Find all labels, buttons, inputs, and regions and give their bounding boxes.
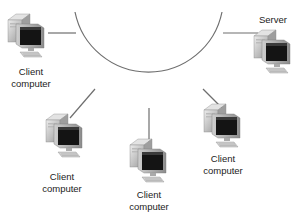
client-top-left-computer-icon[interactable] — [8, 14, 44, 57]
link-client-lower-left — [70, 89, 95, 118]
label-line2: computer — [8, 78, 54, 90]
client-lower-right-label: Client computer — [197, 153, 249, 177]
label-line1: Server — [256, 14, 290, 26]
label-line1: Client — [197, 153, 249, 165]
label-line1: Client — [123, 189, 175, 201]
label-line2: computer — [123, 201, 175, 213]
network-ring-arc — [75, 12, 222, 72]
label-line2: computer — [197, 165, 249, 177]
label-line2: computer — [36, 183, 88, 195]
client-top-left-label: Client computer — [8, 66, 54, 90]
client-lower-right-computer-icon[interactable] — [204, 104, 240, 147]
client-bottom-computer-icon[interactable] — [130, 139, 166, 182]
client-lower-left-label: Client computer — [36, 171, 88, 195]
label-line1: Client — [36, 171, 88, 183]
label-line1: Client — [8, 66, 54, 78]
server-label: Server — [256, 14, 290, 26]
client-lower-left-computer-icon[interactable] — [46, 114, 82, 157]
server-computer-icon[interactable] — [254, 30, 290, 73]
client-bottom-label: Client computer — [123, 189, 175, 213]
